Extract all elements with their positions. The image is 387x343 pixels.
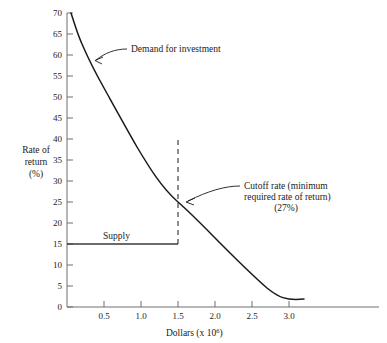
x-axis-title-text: Dollars (x 106) xyxy=(166,327,223,340)
y-tick-40: 40 xyxy=(53,134,63,144)
y-tick-55: 55 xyxy=(53,71,63,81)
supply-label: Supply xyxy=(103,231,130,241)
x-tick-0-5: 0.5 xyxy=(98,311,110,321)
y-tick-0: 0 xyxy=(58,302,63,312)
x-axis-title-main: Dollars (x 10 xyxy=(166,328,216,339)
y-axis-title: Rate of return (%) xyxy=(22,145,51,180)
y-tick-marks xyxy=(67,13,73,307)
demand-annotation-text: Demand for investment xyxy=(131,44,221,54)
x-tick-1-0: 1.0 xyxy=(135,311,147,321)
y-tick-labels: 0 5 10 15 20 25 30 35 40 45 50 55 60 65 … xyxy=(53,8,63,312)
x-axis-title: Dollars (x 106) xyxy=(166,327,223,340)
y-tick-70: 70 xyxy=(53,8,63,18)
y-axis-title-line2: return xyxy=(25,157,48,167)
x-tick-2-0: 2.0 xyxy=(209,311,221,321)
y-tick-50: 50 xyxy=(53,92,63,102)
x-tick-labels: 0.5 1.0 1.5 2.0 2.5 3.0 xyxy=(98,311,295,321)
y-tick-60: 60 xyxy=(53,50,63,60)
y-tick-10: 10 xyxy=(53,260,63,270)
x-axis-title-end: ) xyxy=(219,328,222,339)
y-axis-title-line3: (%) xyxy=(29,169,43,180)
cutoff-leader-line xyxy=(188,186,240,201)
x-tick-2-5: 2.5 xyxy=(246,311,258,321)
cutoff-arrowhead xyxy=(186,198,195,205)
y-tick-20: 20 xyxy=(53,218,63,228)
y-tick-65: 65 xyxy=(53,29,63,39)
y-tick-15: 15 xyxy=(53,239,63,249)
chart-canvas: 0 5 10 15 20 25 30 35 40 45 50 55 60 65 … xyxy=(0,0,387,343)
y-tick-45: 45 xyxy=(53,113,63,123)
investment-demand-supply-chart: 0 5 10 15 20 25 30 35 40 45 50 55 60 65 … xyxy=(0,0,387,343)
cutoff-annotation: Cutoff rate (minimum required rate of re… xyxy=(186,181,331,214)
axes-group xyxy=(67,13,379,307)
cutoff-annotation-line3: (27%) xyxy=(274,203,298,214)
demand-annotation: Demand for investment xyxy=(95,44,221,64)
y-tick-30: 30 xyxy=(53,176,63,186)
y-tick-25: 25 xyxy=(53,197,63,207)
y-axis-title-line1: Rate of xyxy=(22,145,51,155)
cutoff-annotation-line2: required rate of return) xyxy=(244,192,331,203)
x-tick-marks xyxy=(104,301,289,307)
x-tick-3-0: 3.0 xyxy=(283,311,295,321)
y-tick-5: 5 xyxy=(58,281,63,291)
y-tick-35: 35 xyxy=(53,155,63,165)
x-tick-1-5: 1.5 xyxy=(172,311,184,321)
demand-curve xyxy=(71,13,304,300)
cutoff-annotation-line1: Cutoff rate (minimum xyxy=(244,181,328,192)
